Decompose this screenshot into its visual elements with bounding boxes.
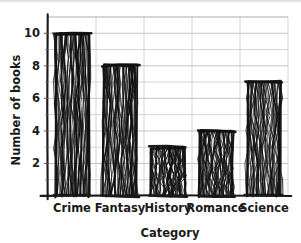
x-axis-title: Category: [141, 226, 200, 240]
y-tick-label: 2: [32, 156, 40, 170]
y-tick-label: 6: [32, 91, 40, 105]
bar-crime: [53, 32, 91, 197]
bar-fantasy: [101, 64, 140, 197]
bar-chart-figure: 108642 CrimeFantasyHistoryRomanceScience…: [0, 0, 301, 243]
x-tick-label-history: History: [145, 201, 192, 215]
y-tick-label: 8: [32, 59, 40, 73]
x-tick-label-crime: Crime: [53, 201, 91, 215]
y-tick-label: 4: [32, 124, 40, 138]
y-axis-title: Number of books: [9, 54, 23, 165]
bar-science: [245, 81, 283, 197]
y-tick-label: 10: [24, 26, 40, 40]
bar-history: [149, 146, 187, 197]
chart-canvas: 108642 CrimeFantasyHistoryRomanceScience…: [0, 0, 301, 243]
x-tick-label-fantasy: Fantasy: [95, 201, 146, 215]
y-tick-labels: 108642: [24, 26, 40, 170]
x-tick-labels: CrimeFantasyHistoryRomanceScience: [53, 201, 289, 215]
bar-romance: [198, 130, 236, 197]
x-tick-label-romance: Romance: [186, 201, 246, 215]
x-tick-label-science: Science: [239, 201, 289, 215]
